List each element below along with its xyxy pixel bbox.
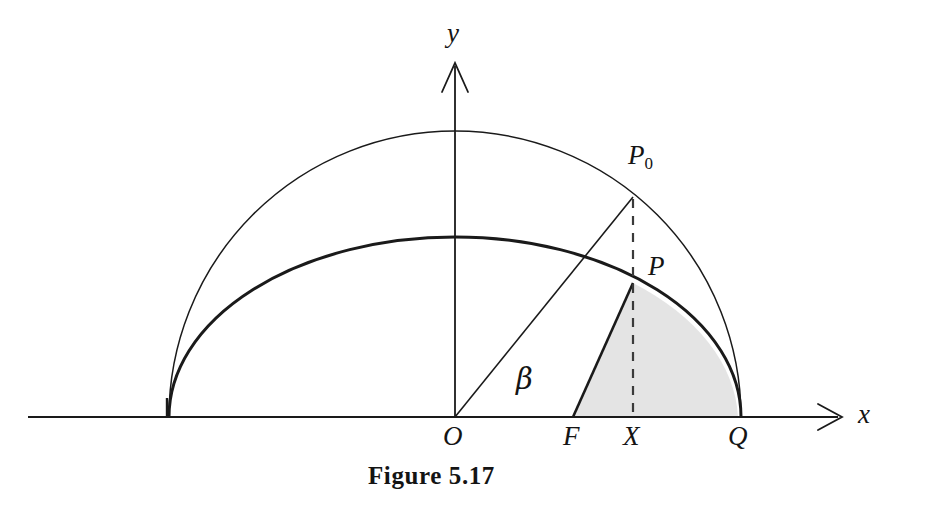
point-label-P0-subscript: 0 [645, 154, 654, 173]
geometry-diagram [0, 0, 933, 511]
figure-caption: Figure 5.17 [368, 462, 495, 490]
shaded-region-FPQ [573, 283, 738, 417]
point-label-O: O [443, 423, 463, 450]
point-label-X: X [623, 423, 640, 450]
point-label-P0-base: P [628, 140, 645, 170]
angle-label-beta: β [516, 365, 533, 394]
figure-container: y x O F X Q P P0 β Figure 5.17 [0, 0, 933, 511]
y-axis-label: y [447, 20, 459, 47]
point-label-Q: Q [728, 423, 748, 450]
point-label-F: F [563, 423, 580, 450]
x-axis-label: x [858, 401, 870, 428]
point-label-P0: P0 [628, 142, 653, 172]
point-label-P: P [648, 253, 665, 280]
